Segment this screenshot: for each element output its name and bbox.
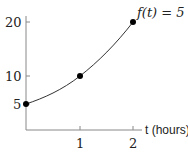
x-axis-label: t (hours) xyxy=(145,124,188,136)
function-formula: f(t) = 5 · xyxy=(137,6,188,19)
x-tick-label-2: 2 xyxy=(129,137,137,150)
y-tick-label-10: 10 xyxy=(5,70,22,83)
y-tick-label-5: 5 xyxy=(13,98,21,111)
data-point-0 xyxy=(23,101,29,107)
data-point-2 xyxy=(130,19,136,25)
function-curve xyxy=(26,22,133,104)
y-tick-label-20: 20 xyxy=(5,16,22,29)
x-tick-label-1: 1 xyxy=(76,137,84,150)
data-point-1 xyxy=(77,73,83,79)
